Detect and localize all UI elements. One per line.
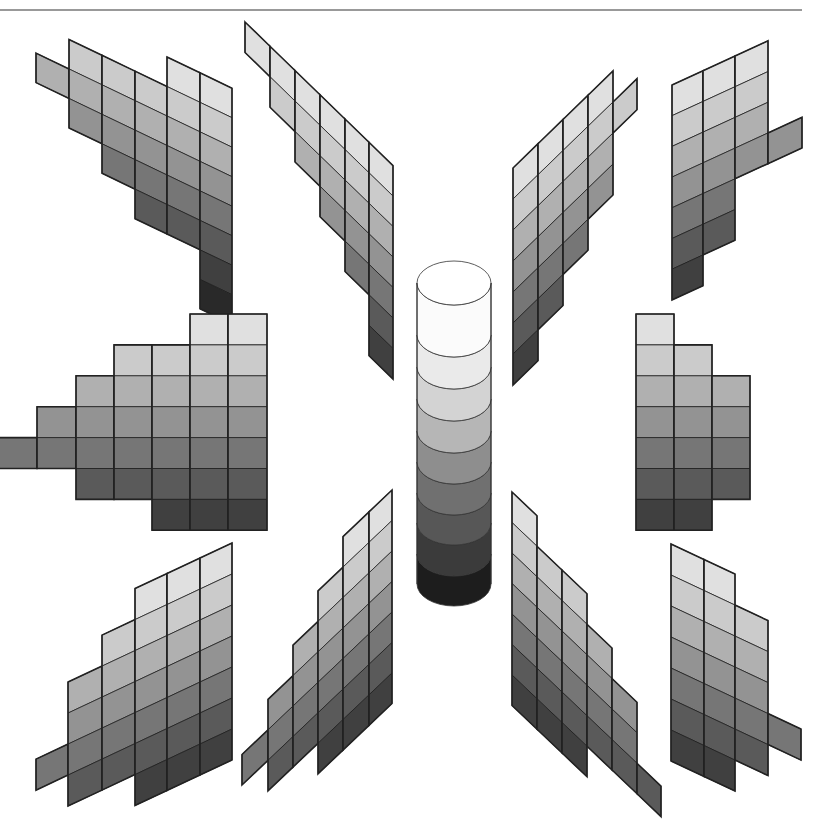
- hue-page-bottom-left: [36, 543, 232, 806]
- hue-page-middle-right: [636, 314, 750, 530]
- hue-page-middle-left: [0, 314, 267, 530]
- hue-page-top-right: [672, 41, 802, 300]
- value-chip: [190, 438, 228, 469]
- value-chip: [228, 314, 267, 345]
- value-chip: [76, 376, 114, 407]
- value-chip: [152, 469, 190, 500]
- value-chip: [114, 407, 152, 438]
- value-chip: [712, 438, 750, 469]
- value-chip: [76, 407, 114, 438]
- value-chip: [636, 345, 674, 376]
- value-chip: [228, 345, 267, 376]
- hue-page-bottom-center-right: [512, 492, 661, 817]
- value-chip: [245, 22, 270, 77]
- neutral-value-cylinder: [417, 261, 491, 606]
- value-chip: [152, 438, 190, 469]
- color-solid-diagram: [0, 0, 816, 840]
- value-chip: [190, 407, 228, 438]
- value-chip: [114, 469, 152, 500]
- value-chip: [36, 53, 69, 98]
- hue-page-bottom-center-left: [242, 490, 392, 791]
- value-chip: [712, 469, 750, 500]
- value-chip: [190, 499, 228, 530]
- value-chip: [637, 763, 661, 816]
- value-chip: [114, 438, 152, 469]
- value-chip: [674, 407, 712, 438]
- value-chip: [712, 376, 750, 407]
- value-chip: [636, 407, 674, 438]
- value-chip: [674, 499, 712, 530]
- value-chip: [228, 376, 267, 407]
- value-chip: [190, 469, 228, 500]
- value-chip: [242, 730, 268, 785]
- value-chip: [636, 469, 674, 500]
- value-chip: [37, 438, 76, 469]
- value-chip: [674, 438, 712, 469]
- value-chip: [228, 499, 267, 530]
- hue-page-top-left: [36, 39, 232, 324]
- value-chip: [0, 438, 37, 469]
- value-chip: [190, 376, 228, 407]
- hue-pages: [0, 22, 802, 817]
- value-chip: [674, 376, 712, 407]
- value-chip: [76, 438, 114, 469]
- value-chip: [114, 376, 152, 407]
- value-chip: [228, 407, 267, 438]
- value-chip: [712, 407, 750, 438]
- value-chip: [636, 314, 674, 345]
- value-chip: [37, 407, 76, 438]
- value-chip: [636, 376, 674, 407]
- value-chip: [674, 345, 712, 376]
- value-chip: [228, 469, 267, 500]
- value-chip: [636, 499, 674, 530]
- value-chip: [152, 345, 190, 376]
- value-chip: [114, 345, 152, 376]
- value-chip: [228, 438, 267, 469]
- value-chip: [190, 314, 228, 345]
- hue-page-top-center-right: [513, 71, 637, 385]
- value-chip: [76, 469, 114, 500]
- value-chip: [674, 469, 712, 500]
- value-chip: [636, 438, 674, 469]
- value-chip: [152, 407, 190, 438]
- value-chip: [152, 376, 190, 407]
- cylinder-top-face: [417, 261, 491, 305]
- value-chip: [190, 345, 228, 376]
- value-chip: [613, 79, 637, 133]
- hue-page-bottom-right: [671, 544, 801, 791]
- value-chip: [152, 499, 190, 530]
